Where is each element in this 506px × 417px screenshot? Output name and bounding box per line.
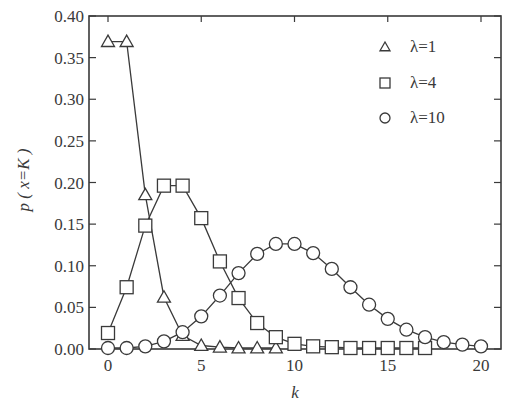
circle-marker <box>139 340 152 353</box>
square-marker <box>251 317 264 330</box>
legend-item: λ=10 <box>380 108 445 127</box>
circle-marker <box>232 267 245 280</box>
circle-marker <box>363 298 376 311</box>
square-marker <box>325 341 338 354</box>
circle-marker <box>213 289 226 302</box>
square-marker <box>232 292 245 305</box>
x-tick-label: 5 <box>197 356 206 375</box>
circle-marker <box>419 331 432 344</box>
circle-marker <box>120 342 133 355</box>
circle-marker <box>475 340 488 353</box>
triangle-marker <box>251 342 264 353</box>
circle-marker <box>307 247 320 260</box>
circle-marker <box>176 326 189 339</box>
circle-marker <box>456 338 469 351</box>
y-tick-label: 0.15 <box>54 215 84 234</box>
legend-label: λ=4 <box>410 73 437 92</box>
y-tick-label: 0.00 <box>54 340 84 359</box>
circle-marker <box>381 312 394 325</box>
square-marker <box>307 340 320 353</box>
y-tick-label: 0.35 <box>54 49 84 68</box>
square-marker <box>120 281 133 294</box>
square-marker <box>195 212 208 225</box>
circle-marker <box>344 281 357 294</box>
square-marker <box>381 342 394 355</box>
circle-marker <box>325 262 338 275</box>
square-marker <box>380 78 390 88</box>
triangle-marker <box>157 291 170 302</box>
circle-marker <box>102 342 115 355</box>
series-λ=1 <box>102 35 283 353</box>
y-tick-label: 0.05 <box>54 298 84 317</box>
circle-marker <box>269 237 282 250</box>
square-marker <box>157 179 170 192</box>
circle-marker <box>157 335 170 348</box>
square-marker <box>139 219 152 232</box>
triangle-marker <box>380 42 390 51</box>
legend: λ=1λ=4λ=10 <box>380 37 445 127</box>
square-marker <box>288 337 301 350</box>
plot-frame <box>89 16 501 349</box>
y-tick-label: 0.20 <box>54 174 84 193</box>
x-tick-label: 0 <box>104 356 113 375</box>
square-marker <box>176 179 189 192</box>
circle-marker <box>251 247 264 260</box>
legend-label: λ=10 <box>410 108 445 127</box>
poisson-chart: 051015200.000.050.100.150.200.250.300.35… <box>0 0 506 417</box>
square-marker <box>363 342 376 355</box>
circle-marker <box>195 310 208 323</box>
triangle-marker <box>120 35 133 46</box>
x-tick-label: 10 <box>286 356 303 375</box>
series-line <box>108 42 276 348</box>
x-tick-label: 20 <box>473 356 490 375</box>
y-axis-label: p ( x=K ) <box>14 148 33 212</box>
circle-marker <box>400 323 413 336</box>
y-tick-label: 0.40 <box>54 7 84 26</box>
circle-marker <box>437 336 450 349</box>
square-marker <box>102 327 115 340</box>
square-marker <box>400 342 413 355</box>
square-marker <box>213 255 226 268</box>
y-tick-label: 0.10 <box>54 257 84 276</box>
square-marker <box>269 331 282 344</box>
x-tick-label: 15 <box>379 356 396 375</box>
circle-marker <box>288 237 301 250</box>
y-tick-label: 0.25 <box>54 132 84 151</box>
plot-border <box>89 16 501 349</box>
square-marker <box>344 342 357 355</box>
series-λ=4 <box>102 179 432 354</box>
x-axis-label: k <box>291 383 299 402</box>
axis-ticks: 051015200.000.050.100.150.200.250.300.35… <box>54 7 501 375</box>
y-tick-label: 0.30 <box>54 90 84 109</box>
triangle-marker <box>139 188 152 199</box>
legend-label: λ=1 <box>410 37 436 56</box>
legend-item: λ=4 <box>380 73 437 92</box>
triangle-marker <box>102 35 115 46</box>
legend-item: λ=1 <box>380 37 436 56</box>
circle-marker <box>380 113 390 123</box>
series-line <box>108 186 425 348</box>
triangle-marker <box>195 339 208 350</box>
